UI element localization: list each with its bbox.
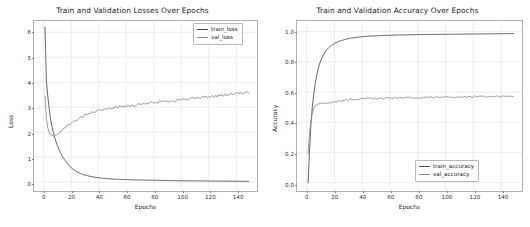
loss-plot-canvas (34, 21, 257, 191)
y-tick-label: 3 (27, 105, 31, 111)
y-tick-label: 2 (27, 131, 31, 137)
accuracy-panel: Train and Validation Accuracy Over Epoch… (265, 0, 530, 227)
legend-line-swatch (419, 174, 430, 175)
x-tick-label: 140 (498, 194, 509, 200)
legend-item-train_accuracy[interactable]: train_accuracy (419, 164, 474, 170)
y-tick-label: 1.0 (285, 29, 294, 35)
x-tick-label: 80 (415, 194, 422, 200)
legend-item-val_accuracy[interactable]: val_accuracy (419, 172, 474, 178)
x-tick-label: 80 (151, 194, 158, 200)
series-line-train_loss (45, 27, 249, 181)
y-tick-label: 0.4 (285, 120, 294, 126)
series-line-val_loss (45, 92, 249, 137)
x-tick-mark (155, 191, 156, 193)
x-tick-mark (475, 191, 476, 193)
x-tick-label: 0 (305, 194, 309, 200)
x-tick-mark (127, 191, 128, 193)
accuracy-y-axis-label: Accuracy (271, 105, 278, 132)
loss-legend: train_lossval_loss (193, 23, 243, 45)
legend-item-label: val_accuracy (433, 172, 469, 178)
y-tick-label: 0.0 (285, 182, 294, 188)
x-tick-mark (447, 191, 448, 193)
series-line-val_accuracy (308, 96, 514, 154)
x-tick-mark (183, 191, 184, 193)
y-tick-mark (32, 58, 34, 59)
y-tick-label: 0.6 (285, 90, 294, 96)
y-tick-mark (295, 32, 297, 33)
y-tick-label: 1 (27, 156, 31, 162)
y-tick-label: 0.2 (285, 151, 294, 157)
x-tick-label: 100 (177, 194, 188, 200)
y-tick-label: 0 (27, 181, 31, 187)
x-tick-label: 60 (123, 194, 130, 200)
x-tick-mark (72, 191, 73, 193)
accuracy-plot-area: 0.00.20.40.60.81.0020406080100120140 (296, 20, 523, 192)
loss-x-axis-label: Epochs (33, 203, 258, 210)
x-tick-mark (99, 191, 100, 193)
legend-item-label: train_loss (211, 27, 238, 33)
y-tick-label: 5 (27, 55, 31, 61)
loss-plot-area: 0123456020406080100120140 (33, 20, 258, 192)
y-tick-mark (32, 83, 34, 84)
x-tick-label: 40 (96, 194, 103, 200)
x-tick-label: 140 (233, 194, 244, 200)
x-tick-label: 20 (68, 194, 75, 200)
x-tick-label: 100 (442, 194, 453, 200)
loss-y-axis-label: Loss (7, 115, 14, 128)
y-tick-mark (295, 123, 297, 124)
y-tick-mark (295, 154, 297, 155)
y-tick-mark (32, 32, 34, 33)
x-tick-label: 60 (387, 194, 394, 200)
x-tick-mark (238, 191, 239, 193)
x-tick-mark (419, 191, 420, 193)
legend-line-swatch (419, 166, 430, 167)
x-tick-label: 120 (470, 194, 481, 200)
x-tick-label: 0 (42, 194, 46, 200)
x-tick-mark (210, 191, 211, 193)
y-tick-mark (295, 93, 297, 94)
accuracy-legend: train_accuracyval_accuracy (415, 160, 479, 182)
y-tick-label: 4 (27, 80, 31, 86)
x-tick-mark (335, 191, 336, 193)
y-tick-mark (295, 185, 297, 186)
matplotlib-figure: Train and Validation Losses Over Epochs … (0, 0, 530, 227)
x-tick-label: 40 (359, 194, 366, 200)
x-tick-mark (391, 191, 392, 193)
legend-item-label: val_loss (211, 35, 233, 41)
legend-line-swatch (197, 37, 208, 38)
x-tick-label: 20 (331, 194, 338, 200)
x-tick-mark (44, 191, 45, 193)
y-tick-mark (32, 108, 34, 109)
legend-line-swatch (197, 29, 208, 30)
y-tick-label: 6 (27, 29, 31, 35)
series-line-train_accuracy (308, 34, 514, 183)
x-tick-mark (363, 191, 364, 193)
legend-item-train_loss[interactable]: train_loss (197, 27, 238, 33)
accuracy-plot-canvas (297, 21, 522, 191)
y-tick-label: 0.8 (285, 59, 294, 65)
y-tick-mark (32, 159, 34, 160)
x-tick-mark (307, 191, 308, 193)
accuracy-chart-title: Train and Validation Accuracy Over Epoch… (265, 6, 530, 15)
loss-chart-title: Train and Validation Losses Over Epochs (0, 6, 265, 15)
x-tick-label: 120 (205, 194, 216, 200)
loss-panel: Train and Validation Losses Over Epochs … (0, 0, 265, 227)
legend-item-val_loss[interactable]: val_loss (197, 35, 238, 41)
legend-item-label: train_accuracy (433, 164, 474, 170)
y-tick-mark (32, 134, 34, 135)
y-tick-mark (295, 62, 297, 63)
x-tick-mark (503, 191, 504, 193)
accuracy-x-axis-label: Epochs (296, 203, 523, 210)
y-tick-mark (32, 184, 34, 185)
